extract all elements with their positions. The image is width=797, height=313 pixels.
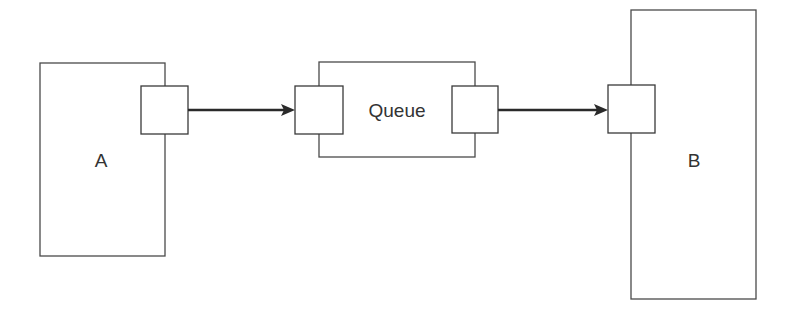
- node-a[interactable]: A: [40, 63, 188, 256]
- diagram-canvas: A Queue B: [0, 0, 797, 313]
- node-b-input-port[interactable]: [608, 85, 655, 133]
- node-queue[interactable]: Queue: [295, 62, 498, 157]
- node-a-label: A: [95, 150, 108, 171]
- node-b-label: B: [688, 150, 701, 171]
- node-queue-input-port[interactable]: [295, 86, 343, 134]
- node-a-output-port[interactable]: [141, 86, 188, 134]
- node-queue-output-port[interactable]: [452, 86, 498, 133]
- node-queue-label: Queue: [368, 100, 425, 121]
- node-b[interactable]: B: [608, 10, 756, 299]
- edge-queue-to-b: [498, 104, 608, 116]
- edge-a-to-queue: [188, 104, 295, 116]
